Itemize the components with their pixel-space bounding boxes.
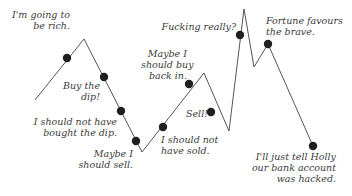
marker-dot xyxy=(100,73,108,81)
marker-dot xyxy=(159,123,167,131)
label-buy-the-dip: Buy the dip! xyxy=(56,80,100,102)
label-fortune-favours: Fortune favours the brave. xyxy=(266,15,350,37)
label-should-not-have-sold: I should not have sold. xyxy=(161,134,221,156)
label-tell-holly: I'll just tell Holly our bank account wa… xyxy=(236,151,336,184)
marker-dot xyxy=(264,40,272,48)
label-really: Fucking really? xyxy=(158,21,236,32)
marker-dot xyxy=(207,108,215,116)
marker-dot xyxy=(309,142,317,150)
marker-dot xyxy=(185,80,193,88)
marker-dot xyxy=(132,137,140,145)
marker-dot xyxy=(63,54,71,62)
label-maybe-buy-back-in: Maybe I should buy back in. xyxy=(141,48,187,81)
marker-dot xyxy=(236,31,244,39)
label-im-going-to-be-rich: I'm going to be rich. xyxy=(4,9,70,31)
label-sell: Sell! xyxy=(184,108,208,119)
label-should-not-have-bought: I should not have bought the dip. xyxy=(26,116,117,138)
marker-dot xyxy=(117,107,125,115)
label-maybe-should-sell: Maybe I should sell. xyxy=(70,148,133,170)
